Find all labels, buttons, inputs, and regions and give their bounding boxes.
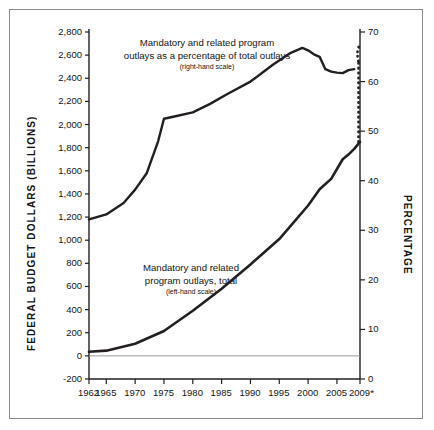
series-line-dollars xyxy=(89,142,360,352)
chart-plot xyxy=(10,10,424,420)
chart-frame: FEDERAL BUDGET DOLLARS (BILLIONS) PERCEN… xyxy=(9,9,423,419)
series-line-percentage xyxy=(89,48,354,220)
series-line-percentage-projected xyxy=(357,45,359,61)
